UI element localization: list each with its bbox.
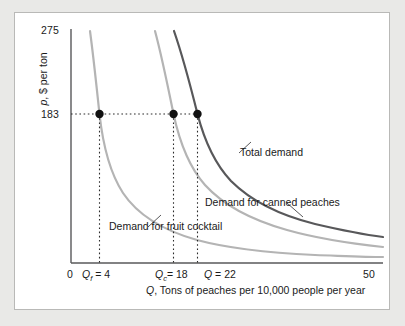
curve-canned-peaches — [155, 31, 383, 247]
x-marker-q-canned: Qc= 18 — [155, 268, 188, 283]
q-fruit-symbol: Q — [82, 268, 90, 280]
q-fruit-subscript: f — [90, 274, 92, 283]
label-total-demand: Total demand — [240, 146, 303, 158]
q-canned-value: = 18 — [167, 268, 188, 280]
y-axis-title-text: , $ per ton — [37, 52, 49, 99]
q-total-symbol: Q — [204, 268, 212, 280]
x-marker-q-fruit: Qf = 4 — [82, 268, 110, 283]
y-tick-275: 275 — [41, 24, 59, 36]
label-canned-peaches: Demand for canned peaches — [205, 196, 340, 208]
point-q-fruit — [95, 110, 103, 118]
q-total-value: = 22 — [215, 268, 236, 280]
x-axis-title: Q, Tons of peaches per 10,000 people per… — [146, 284, 365, 296]
x-tick-50: 50 — [363, 268, 375, 280]
label-fruit-cocktail: Demand for fruit cocktail — [109, 220, 222, 232]
x-axis-title-symbol: Q — [146, 284, 154, 296]
figure-panel: p, $ per ton 275 183 0 50 Qf = 4 Qc= 18 … — [14, 12, 390, 310]
q-canned-symbol: Q — [155, 268, 163, 280]
demand-curve-plot — [15, 13, 389, 309]
x-marker-q-total: Q = 22 — [204, 268, 236, 280]
point-q-total — [193, 110, 201, 118]
point-q-canned — [169, 110, 177, 118]
x-tick-0: 0 — [67, 268, 73, 280]
x-axis-title-text: , Tons of peaches per 10,000 people per … — [154, 284, 365, 296]
q-fruit-value: = 4 — [95, 268, 110, 280]
y-tick-183: 183 — [41, 108, 59, 120]
page-bleed-artifact — [0, 0, 405, 9]
